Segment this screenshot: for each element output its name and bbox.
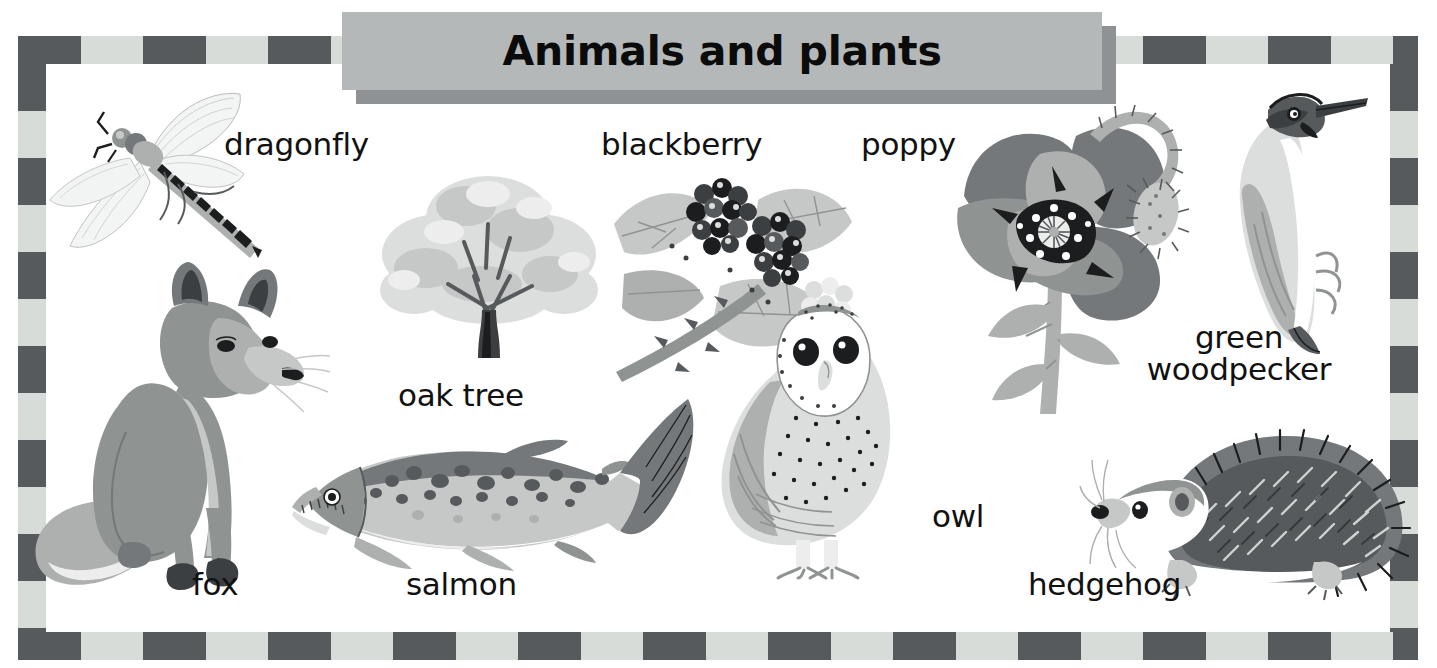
border-cell-top <box>81 36 144 64</box>
border-cell-bottom <box>893 632 956 660</box>
border-cell-bottom <box>1268 632 1331 660</box>
owl-illustration <box>700 278 930 578</box>
label-green-woodpecker-line1: green <box>1195 319 1283 355</box>
border-cell-top <box>268 36 331 64</box>
border-cell-left <box>18 628 46 632</box>
poster-page: Animals and plants <box>0 0 1437 668</box>
label-salmon: salmon <box>406 568 517 601</box>
salmon-illustration <box>290 395 710 570</box>
border-cell-bottom <box>1143 632 1206 660</box>
border-cell-left <box>18 111 46 158</box>
border-cell-bottom <box>1081 632 1144 660</box>
label-hedgehog: hedgehog <box>1028 568 1181 601</box>
berry-cluster-dark-2 <box>746 212 809 287</box>
border-cell-right <box>1390 158 1418 205</box>
label-fox: fox <box>192 568 238 601</box>
border-cell-bottom <box>581 632 644 660</box>
green-woodpecker-illustration <box>1216 76 1376 356</box>
border-cell-right <box>1390 299 1418 346</box>
border-cell-bottom <box>393 632 456 660</box>
page-title: Animals and plants <box>342 12 1102 90</box>
border-cell-right <box>1390 205 1418 252</box>
label-owl: owl <box>932 500 984 533</box>
label-green-woodpecker: green woodpecker <box>1141 322 1337 385</box>
border-cell-top <box>1393 36 1418 64</box>
fox-illustration <box>30 256 330 596</box>
border-cell-right <box>1390 111 1418 158</box>
border-cell-bottom <box>456 632 519 660</box>
label-blackberry: blackberry <box>601 128 762 161</box>
border-cell-left <box>18 205 46 252</box>
border-cell-top <box>1268 36 1331 64</box>
border-cell-bottom <box>1206 632 1269 660</box>
border-cell-top <box>206 36 269 64</box>
dragonfly-illustration <box>44 88 294 268</box>
border-cell-bottom <box>768 632 831 660</box>
border-cell-right <box>1390 64 1418 111</box>
label-poppy: poppy <box>861 128 956 161</box>
label-oak-tree: oak tree <box>398 379 524 412</box>
border-cell-bottom <box>1331 632 1394 660</box>
border-cell-right <box>1390 252 1418 299</box>
border-cell-bottom <box>1018 632 1081 660</box>
border-cell-top <box>1206 36 1269 64</box>
border-cell-bottom <box>268 632 331 660</box>
border-cell-bottom <box>518 632 581 660</box>
border-cell-bottom <box>831 632 894 660</box>
title-banner: Animals and plants <box>342 12 1102 90</box>
border-cell-top <box>18 36 81 64</box>
border-cell-bottom <box>18 632 81 660</box>
border-cell-right <box>1390 628 1418 632</box>
border-cell-bottom <box>331 632 394 660</box>
border-cell-bottom <box>643 632 706 660</box>
border-cell-bottom <box>143 632 206 660</box>
border-cell-right <box>1390 346 1418 393</box>
border-cell-left <box>18 158 46 205</box>
border-cell-left <box>18 64 46 111</box>
border-cell-bottom <box>706 632 769 660</box>
border-cell-top <box>143 36 206 64</box>
border-cell-bottom <box>956 632 1019 660</box>
border-cell-bottom <box>1393 632 1418 660</box>
label-dragonfly: dragonfly <box>224 128 369 161</box>
label-green-woodpecker-line2: woodpecker <box>1147 351 1331 387</box>
oak-tree-illustration <box>378 158 598 366</box>
border-cell-bottom <box>206 632 269 660</box>
border-cell-top <box>1331 36 1394 64</box>
border-cell-top <box>1143 36 1206 64</box>
border-cell-bottom <box>81 632 144 660</box>
